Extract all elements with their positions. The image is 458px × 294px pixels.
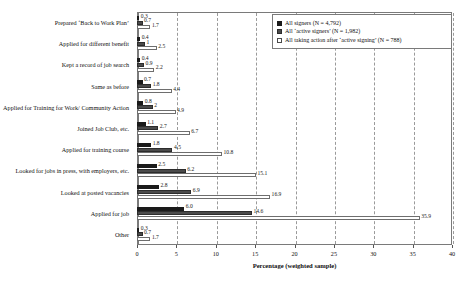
bar [137, 84, 151, 88]
category-label: Applied for Training for Work/ Community… [0, 104, 133, 111]
bar-value-label: 2.2 [156, 65, 163, 71]
bar [137, 148, 172, 152]
chart-figure: Prepared ‘Back to Work Plan’Applied for … [0, 0, 458, 294]
bar [137, 190, 191, 194]
x-tick-label: 25 [331, 250, 337, 257]
gridline [453, 13, 454, 244]
x-tick-label: 15 [252, 250, 258, 257]
bar [137, 110, 176, 114]
category-label: Other [0, 231, 133, 238]
x-tick [137, 245, 138, 248]
bar [137, 173, 256, 177]
bar-value-label: 4.4 [173, 87, 180, 93]
legend-swatch-icon [277, 21, 282, 26]
bar-value-label: 2.5 [158, 44, 165, 50]
bar-value-label: 16.9 [272, 192, 282, 198]
category-label: Looked at posted vacancies [0, 189, 133, 196]
bar-group: 0.71.84.4 [137, 76, 452, 97]
bar-value-label: 15.1 [257, 171, 267, 177]
bar-group: 0.824.9 [137, 97, 452, 118]
category-label: Joined Job Club, etc. [0, 125, 133, 132]
bar [137, 228, 139, 232]
bar [137, 126, 158, 130]
bar [137, 195, 270, 199]
bar-value-label: 4.9 [177, 108, 184, 114]
bar [137, 68, 154, 72]
bar-value-label: 6.9 [193, 188, 200, 194]
x-tick-label: 35 [410, 250, 416, 257]
bar [137, 185, 159, 189]
bar [137, 169, 186, 173]
category-label: Applied for training course [0, 146, 133, 153]
bar [137, 101, 143, 105]
bar [137, 207, 184, 211]
legend-item-label: All ‘active signers’ (N = 1,982) [285, 28, 360, 35]
x-tick-label: 40 [449, 250, 455, 257]
bar-value-label: 14.6 [253, 209, 263, 215]
bar [137, 21, 143, 25]
bar-group: 2.56.215.1 [137, 160, 452, 181]
bar-value-label: 6.7 [191, 129, 198, 135]
x-tick [295, 245, 296, 248]
legend: All signers (N = 4,792) All ‘active sign… [272, 14, 452, 49]
bar [137, 105, 153, 109]
bar-group: 1.12.76.7 [137, 118, 452, 139]
bar [137, 152, 222, 156]
bar [137, 216, 420, 220]
legend-item-label: All signers (N = 4,792) [285, 20, 341, 27]
bar-value-label: 0.8 [145, 99, 152, 105]
bar [137, 25, 150, 29]
x-tick [176, 245, 177, 248]
legend-item-all-signers: All signers (N = 4,792) [277, 20, 447, 27]
legend-item-label: All taking action after ‘active signing’… [285, 37, 402, 44]
bar-value-label: 1.1 [147, 120, 154, 126]
x-tick [255, 245, 256, 248]
bar-value-label: 2.7 [160, 124, 167, 130]
bar-group: 0.40.92.2 [137, 54, 452, 75]
x-tick [216, 245, 217, 248]
legend-item-active-signers: All ‘active signers’ (N = 1,982) [277, 28, 447, 35]
bar-group: 0.30.71.7 [137, 224, 452, 245]
category-label: Same as before [0, 83, 133, 90]
bar-value-label: 0.7 [144, 77, 151, 83]
bar-group: 6.014.635.9 [137, 203, 452, 224]
bar [137, 58, 140, 62]
bar-value-label: 0.7 [144, 18, 151, 24]
bar-value-label: 1.8 [153, 82, 160, 88]
bar [137, 89, 172, 93]
bar-value-label: 6.2 [187, 167, 194, 173]
legend-swatch-icon [277, 29, 282, 34]
x-tick [452, 245, 453, 248]
bar [137, 16, 139, 20]
bar-value-label: 35.9 [421, 214, 431, 220]
x-tick-label: 10 [213, 250, 219, 257]
x-axis: 0510152025303540 [137, 245, 452, 263]
bar [137, 237, 150, 241]
category-label: Looked for jobs in press, with employers… [0, 167, 133, 174]
category-label: Applied for job [0, 210, 133, 217]
bar [137, 42, 145, 46]
bar [137, 232, 143, 236]
legend-item-taking-action: All taking action after ‘active signing’… [277, 37, 447, 44]
bar [137, 37, 140, 41]
bar-value-label: 4.5 [174, 145, 181, 151]
bar [137, 143, 151, 147]
bar [137, 211, 252, 215]
category-label: Kept a record of job search [0, 61, 133, 68]
bar [137, 63, 144, 67]
x-axis-title: Percentage (weighted sample) [137, 262, 452, 269]
bar-value-label: 2.5 [158, 162, 165, 168]
bar-value-label: 0.9 [146, 61, 153, 67]
x-tick [334, 245, 335, 248]
x-tick-label: 5 [175, 250, 178, 257]
bar-value-label: 10.8 [224, 150, 234, 156]
x-tick-label: 20 [291, 250, 297, 257]
bar-value-label: 1.7 [152, 235, 159, 241]
bar [137, 46, 157, 50]
bar [137, 80, 143, 84]
legend-swatch-icon [277, 38, 282, 43]
bar-group: 1.84.510.8 [137, 139, 452, 160]
x-tick-label: 30 [370, 250, 376, 257]
x-tick [373, 245, 374, 248]
bar-value-label: 2 [154, 103, 157, 109]
